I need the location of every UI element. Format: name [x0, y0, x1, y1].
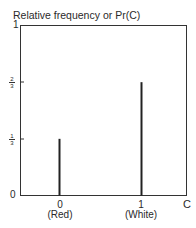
plot-frame [21, 26, 187, 196]
frac-den: 3 [10, 83, 13, 89]
xtick-label-1: 1 (White) [125, 200, 157, 220]
ytick-label-two-thirds: 2 3 [8, 76, 16, 89]
xtick-label-0: 0 (Red) [47, 200, 72, 220]
chart-plot [0, 0, 196, 228]
x-axis-label: C [183, 199, 191, 209]
ytick-label-one-third: 1 3 [8, 133, 16, 146]
xtick-sublabel: (Red) [47, 210, 72, 220]
xtick-sublabel: (White) [125, 210, 157, 220]
frac-den: 3 [10, 140, 13, 146]
frac-num: 1 [10, 133, 13, 139]
ytick-label-1: 1 [13, 19, 19, 30]
frac-num: 2 [10, 76, 13, 82]
ytick-label-0: 0 [10, 189, 16, 200]
